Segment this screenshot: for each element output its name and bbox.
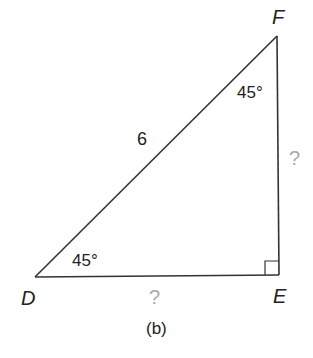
vertex-label-e: E — [273, 285, 287, 307]
side-label-ef: ? — [289, 147, 300, 169]
angle-label-f: 45° — [237, 83, 263, 102]
side-label-de: ? — [149, 286, 160, 308]
triangle-diagram: F D E 45° 45° 6 ? ? (b) — [0, 0, 313, 358]
figure-caption: (b) — [146, 319, 167, 338]
vertex-label-d: D — [21, 287, 35, 309]
vertex-label-f: F — [272, 6, 286, 28]
right-angle-marker — [265, 261, 279, 275]
side-df — [35, 36, 277, 277]
side-fe — [277, 36, 279, 275]
side-label-df: 6 — [137, 129, 147, 149]
angle-label-d: 45° — [72, 251, 98, 270]
side-de — [35, 275, 279, 277]
